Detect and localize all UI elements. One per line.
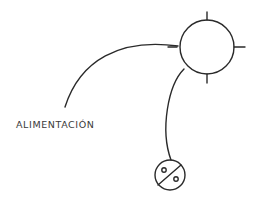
switch-line [166, 69, 184, 160]
feed-line [65, 44, 178, 107]
feed-label: ALIMENTACIÓN [16, 119, 95, 130]
switch-icon [155, 160, 185, 190]
wiring-diagram [0, 0, 257, 207]
light-point-icon [168, 12, 245, 83]
